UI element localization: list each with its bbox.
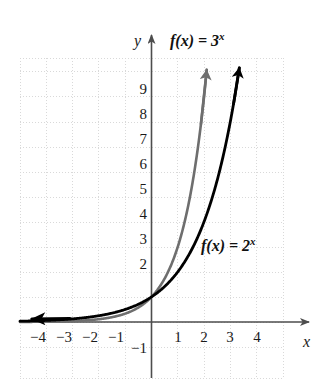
curve-3-to-the-x <box>20 70 207 322</box>
curve-2-to-the-x-arrow <box>234 68 240 104</box>
curve-label-3-exponent: x <box>219 30 225 42</box>
y-tick-6: 6 <box>125 157 147 172</box>
curve-label-3-to-the-x: f(x) = 3x <box>170 31 225 49</box>
x-tick-4: 4 <box>247 330 267 345</box>
y-tick-4: 4 <box>125 207 147 222</box>
y-tick-7: 7 <box>125 132 147 147</box>
y-tick-minus-1: −1 <box>125 341 147 356</box>
curve-label-2-exponent: x <box>250 235 256 247</box>
x-tick-3: 3 <box>220 330 240 345</box>
x-tick-minus-2: −2 <box>80 330 100 345</box>
curve-label-2-text: f(x) = 2 <box>201 237 250 254</box>
curves-left-tail-arrow <box>32 318 70 319</box>
x-tick-minus-1: −1 <box>106 330 126 345</box>
y-tick-8: 8 <box>125 107 147 122</box>
y-tick-5: 5 <box>125 182 147 197</box>
x-tick-1: 1 <box>168 330 188 345</box>
x-tick-minus-3: −3 <box>54 330 74 345</box>
x-tick-2: 2 <box>194 330 214 345</box>
x-tick-minus-4: −4 <box>28 330 48 345</box>
y-tick-3: 3 <box>125 232 147 247</box>
plot-canvas <box>0 0 332 391</box>
curve-label-3-text: f(x) = 3 <box>170 32 219 49</box>
y-axis-label: y <box>134 33 141 49</box>
y-tick-2: 2 <box>125 257 147 272</box>
exponential-functions-graph: y x 9 8 7 6 5 4 3 2 −1 −4 −3 −2 −1 1 2 3… <box>0 0 332 391</box>
x-axis-label: x <box>303 334 310 350</box>
curve-label-2-to-the-x: f(x) = 2x <box>201 236 256 254</box>
y-tick-9: 9 <box>125 82 147 97</box>
